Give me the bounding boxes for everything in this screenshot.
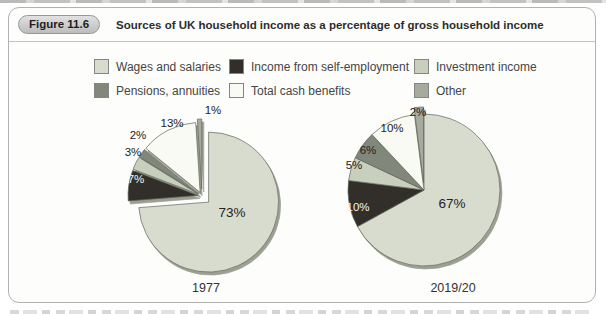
- legend-label: Pensions, annuities: [116, 84, 220, 98]
- legend-item-investment: Investment income: [414, 59, 537, 74]
- wages-swatch-icon: [94, 59, 109, 74]
- legend-label: Other: [436, 84, 466, 98]
- pie-chart-1977: [95, 100, 310, 280]
- legend-item-pensions: Pensions, annuities: [94, 83, 229, 98]
- legend-label: Wages and salaries: [116, 60, 221, 74]
- legend-item-wages: Wages and salaries: [94, 59, 229, 74]
- legend-label: Income from self-employment: [251, 60, 409, 74]
- legend-label: Total cash benefits: [251, 84, 350, 98]
- self-employment-swatch-icon: [229, 59, 244, 74]
- figure-badge: Figure 11.6: [18, 15, 100, 34]
- legend-item-self-employment: Income from self-employment: [229, 59, 414, 74]
- pie-chart-2019-20: [330, 104, 530, 274]
- pie-caption-1977: 1977: [146, 281, 266, 295]
- figure-title: Sources of UK household income as a perc…: [116, 19, 544, 31]
- legend: Wages and salaries Income from self-empl…: [94, 59, 537, 98]
- investment-swatch-icon: [414, 59, 429, 74]
- figure-header: Figure 11.6 Sources of UK household inco…: [9, 8, 595, 42]
- pensions-swatch-icon: [94, 83, 109, 98]
- pie-caption-2019-20: 2019/20: [393, 281, 513, 295]
- cropped-source-text: [10, 310, 592, 314]
- legend-item-cash-benefits: Total cash benefits: [229, 83, 414, 98]
- cropped-content-above: [0, 0, 606, 3]
- cash-benefits-swatch-icon: [229, 83, 244, 98]
- legend-label: Investment income: [436, 60, 537, 74]
- other-swatch-icon: [414, 83, 429, 98]
- legend-item-other: Other: [414, 83, 537, 98]
